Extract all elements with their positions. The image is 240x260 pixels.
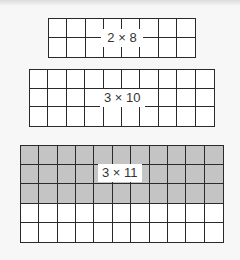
grid-cell	[67, 19, 85, 38]
grid-cell	[58, 223, 76, 242]
grid-cell	[177, 107, 195, 126]
grid-cell	[85, 70, 103, 89]
grid-cell	[58, 204, 76, 223]
grid-cell	[113, 146, 131, 165]
grid-cell	[67, 107, 85, 126]
array-2x8-label: 2 × 8	[101, 29, 143, 47]
grid-cell	[76, 223, 94, 242]
grid-cell	[30, 70, 48, 89]
grid-cell	[205, 223, 223, 242]
grid-cell	[168, 146, 186, 165]
grid-cell	[76, 204, 94, 223]
grid-cell	[159, 89, 177, 108]
grid-cell	[113, 204, 131, 223]
grid-cell	[94, 204, 112, 223]
grid-cell	[94, 184, 112, 203]
grid-cell	[140, 70, 158, 89]
grid-cell	[122, 70, 140, 89]
grid-cell	[21, 204, 39, 223]
grid-cell	[30, 89, 48, 108]
grid-cell	[186, 184, 204, 203]
grid-cell	[48, 89, 66, 108]
grid-cell	[177, 89, 195, 108]
grid-cell	[150, 146, 168, 165]
grid-cell	[48, 70, 66, 89]
grid-cell	[177, 70, 195, 89]
grid-cell	[159, 38, 177, 57]
grid-cell	[76, 146, 94, 165]
grid-cell	[94, 223, 112, 242]
grid-cell	[85, 107, 103, 126]
grid-cell	[150, 165, 168, 184]
grid-cell	[131, 146, 149, 165]
grid-cell	[122, 107, 140, 126]
grid-cell	[205, 184, 223, 203]
grid-cell	[140, 107, 158, 126]
grid-cell	[168, 165, 186, 184]
grid-cell	[39, 165, 57, 184]
grid-cell	[67, 89, 85, 108]
grid-cell	[159, 19, 177, 38]
top-edge-shadow	[0, 0, 240, 6]
array-3x10-label: 3 × 10	[100, 89, 145, 107]
grid-cell	[76, 184, 94, 203]
grid-cell	[39, 184, 57, 203]
grid-cell	[67, 70, 85, 89]
grid-cell	[21, 146, 39, 165]
grid-cell	[67, 38, 85, 57]
grid-cell	[186, 146, 204, 165]
grid-cell	[205, 146, 223, 165]
grid-cell	[186, 223, 204, 242]
grid-cell	[186, 165, 204, 184]
grid-cell	[150, 223, 168, 242]
grid-cell	[39, 146, 57, 165]
grid-cell	[58, 165, 76, 184]
grid-cell	[177, 19, 195, 38]
grid-cell	[159, 70, 177, 89]
array-3x11-of-5x11-label: 3 × 11	[98, 164, 142, 182]
grid-cell	[21, 184, 39, 203]
grid-cell	[21, 223, 39, 242]
grid-cell	[49, 38, 67, 57]
grid-cell	[58, 184, 76, 203]
grid-cell	[168, 223, 186, 242]
array-3x11-of-5x11-grid	[20, 145, 224, 243]
grid-cell	[150, 184, 168, 203]
grid-cell	[76, 165, 94, 184]
grid-cell	[39, 223, 57, 242]
grid-cell	[113, 223, 131, 242]
grid-cell	[104, 107, 122, 126]
grid-cell	[58, 146, 76, 165]
grid-cell	[205, 165, 223, 184]
grid-cell	[39, 204, 57, 223]
grid-cell	[94, 146, 112, 165]
grid-cell	[186, 204, 204, 223]
grid-cell	[48, 107, 66, 126]
grid-cell	[196, 107, 214, 126]
grid-cell	[205, 204, 223, 223]
grid-cell	[168, 204, 186, 223]
grid-cell	[104, 70, 122, 89]
grid-cell	[30, 107, 48, 126]
grid-cell	[168, 184, 186, 203]
grid-cell	[49, 19, 67, 38]
grid-cell	[196, 89, 214, 108]
grid-cell	[131, 204, 149, 223]
grid-cell	[21, 165, 39, 184]
grid-cell	[113, 184, 131, 203]
grid-cell	[150, 204, 168, 223]
grid-cell	[177, 38, 195, 57]
grid-cell	[159, 107, 177, 126]
grid-cell	[131, 223, 149, 242]
grid-cell	[131, 184, 149, 203]
grid-cell	[196, 70, 214, 89]
